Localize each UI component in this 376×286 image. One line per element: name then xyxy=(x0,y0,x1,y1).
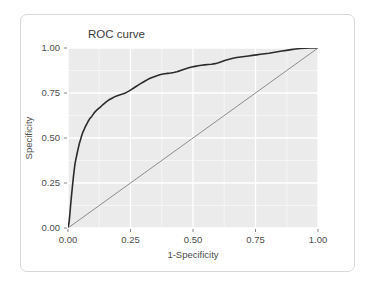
y-tick-label: 0.00 xyxy=(42,222,61,233)
y-axis-title: Specificity xyxy=(23,116,34,159)
chart-title: ROC curve xyxy=(88,28,145,40)
roc-chart: 0.000.250.500.751.00 0.000.250.500.751.0… xyxy=(0,0,376,286)
y-axis-ticks: 0.000.250.500.751.00 xyxy=(42,42,68,233)
x-tick-label: 0.50 xyxy=(184,234,203,245)
x-tick-label: 0.00 xyxy=(59,234,78,245)
y-tick-label: 0.50 xyxy=(42,132,61,143)
x-tick-label: 1.00 xyxy=(309,234,328,245)
y-tick-label: 0.75 xyxy=(42,87,61,98)
y-tick-label: 0.25 xyxy=(42,177,61,188)
roc-chart-svg: 0.000.250.500.751.00 0.000.250.500.751.0… xyxy=(0,0,376,286)
panel-group xyxy=(56,37,334,237)
x-axis-title: 1-Specificity xyxy=(167,249,218,260)
y-tick-label: 1.00 xyxy=(42,42,61,53)
x-tick-label: 0.25 xyxy=(121,234,140,245)
x-axis-ticks: 0.000.250.500.751.00 xyxy=(59,229,328,245)
x-tick-label: 0.75 xyxy=(246,234,265,245)
